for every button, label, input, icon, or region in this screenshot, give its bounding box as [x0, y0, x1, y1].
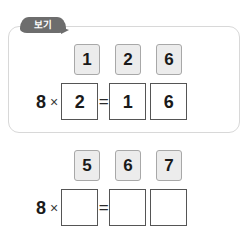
exercise-product-box[interactable] [109, 189, 146, 226]
box-value: 1 [123, 92, 133, 110]
example-choice-tile[interactable]: 2 [115, 44, 141, 75]
example-product-box[interactable]: 1 [109, 83, 146, 120]
exercise-choice-tile[interactable]: 5 [74, 150, 100, 181]
tile-value: 1 [82, 51, 91, 68]
box-value: 6 [164, 92, 174, 110]
example-product-box[interactable]: 6 [150, 83, 187, 120]
multiplication-sign-icon: × [50, 95, 58, 109]
tile-value: 5 [82, 157, 91, 174]
equals-sign-icon: = [98, 199, 109, 216]
example-multiplier-box[interactable]: 2 [61, 83, 98, 120]
example-tag: 보기 [20, 17, 66, 33]
exercise-equation: 8 × = [36, 189, 187, 226]
tile-value: 2 [123, 51, 132, 68]
equals-sign-icon: = [98, 93, 109, 110]
exercise-product-box[interactable] [150, 189, 187, 226]
exercise-multiplier-box[interactable] [61, 189, 98, 226]
example-choice-tiles: 1 2 6 [74, 44, 182, 75]
example-equation: 8 × 2 = 1 6 [36, 83, 187, 120]
box-value: 2 [75, 92, 85, 110]
exercise-choice-tiles: 5 6 7 [74, 150, 182, 181]
example-multiplicand: 8 [36, 93, 46, 111]
example-choice-tile[interactable]: 6 [156, 44, 182, 75]
tile-value: 6 [123, 157, 132, 174]
tile-value: 7 [164, 157, 173, 174]
exercise-choice-tile[interactable]: 6 [115, 150, 141, 181]
multiplication-sign-icon: × [50, 201, 58, 215]
tile-value: 6 [164, 51, 173, 68]
exercise-multiplicand: 8 [36, 199, 46, 217]
example-choice-tile[interactable]: 1 [74, 44, 100, 75]
example-tag-label: 보기 [34, 20, 52, 30]
exercise-choice-tile[interactable]: 7 [156, 150, 182, 181]
